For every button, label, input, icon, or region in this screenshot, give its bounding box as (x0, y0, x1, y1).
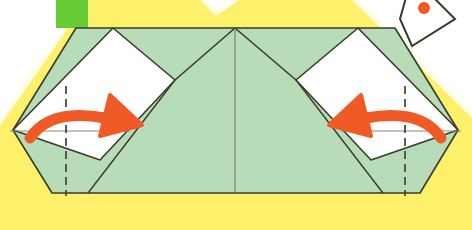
thumbnail-orange-mark (418, 2, 430, 14)
origami-diagram-stage: Origami fold step Origami folding instru… (0, 0, 472, 230)
origami-diagram-svg: Origami fold step Origami folding instru… (0, 0, 472, 230)
green-color-swatch (56, 0, 88, 28)
